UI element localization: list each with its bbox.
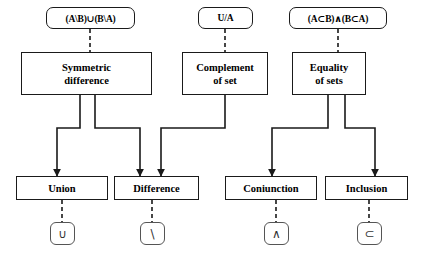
expression-text-symmetric-difference: (A\B)∪(B\A) bbox=[65, 13, 115, 24]
concept-box-symmetric-difference: Symmetric difference bbox=[21, 52, 152, 95]
link-symmetric-to-difference bbox=[95, 95, 140, 176]
operation-label-union: Union bbox=[48, 183, 75, 194]
concept-line2-complement: of set bbox=[213, 74, 237, 87]
symbol-box-coniunction: ∧ bbox=[264, 222, 289, 245]
symbol-box-union: ∪ bbox=[50, 222, 75, 245]
link-symmetric-to-union bbox=[57, 95, 80, 176]
symbol-box-difference: \ bbox=[140, 222, 165, 245]
expression-box-equality: (A⊂B)∧(B⊂A) bbox=[289, 7, 387, 29]
symbol-glyph-union: ∪ bbox=[58, 227, 67, 241]
operation-label-coniunction: Coniunction bbox=[243, 183, 298, 194]
link-complement-to-difference bbox=[161, 95, 225, 176]
concept-box-complement: Complement of set bbox=[182, 52, 268, 95]
concept-line2-symmetric-difference: difference bbox=[64, 74, 109, 87]
expression-box-complement: U/A bbox=[198, 7, 253, 29]
concept-line1-symmetric-difference: Symmetric bbox=[62, 61, 111, 74]
connector-layer bbox=[0, 0, 421, 256]
operation-box-inclusion: Inclusion bbox=[325, 176, 408, 200]
expression-text-equality: (A⊂B)∧(B⊂A) bbox=[308, 13, 368, 24]
symbol-box-inclusion: ⊂ bbox=[357, 222, 382, 245]
operation-label-difference: Difference bbox=[133, 183, 179, 194]
concept-box-equality: Equality of sets bbox=[292, 52, 366, 95]
set-operations-diagram: (A\B)∪(B\A) U/A (A⊂B)∧(B⊂A) Symmetric di… bbox=[0, 0, 421, 256]
symbol-glyph-inclusion: ⊂ bbox=[364, 227, 374, 241]
operation-box-difference: Difference bbox=[114, 176, 199, 200]
operation-box-union: Union bbox=[16, 176, 108, 200]
link-equality-to-inclusion bbox=[345, 95, 375, 176]
concept-line2-equality: of sets bbox=[315, 74, 343, 87]
concept-line1-equality: Equality bbox=[310, 61, 349, 74]
concept-line1-complement: Complement bbox=[196, 61, 254, 74]
symbol-glyph-difference: \ bbox=[150, 227, 154, 241]
expression-box-symmetric-difference: (A\B)∪(B\A) bbox=[46, 7, 135, 29]
operation-box-coniunction: Coniunction bbox=[225, 176, 317, 200]
link-equality-to-coniunction bbox=[272, 95, 328, 176]
operation-label-inclusion: Inclusion bbox=[346, 183, 387, 194]
expression-text-complement: U/A bbox=[218, 13, 234, 23]
symbol-glyph-coniunction: ∧ bbox=[272, 227, 281, 241]
